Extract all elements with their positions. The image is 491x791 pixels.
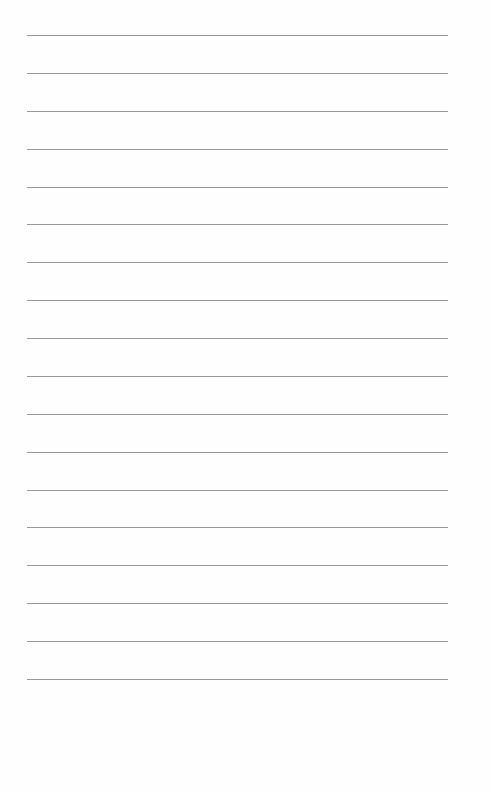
ruled-line <box>27 490 448 491</box>
ruled-line <box>27 224 448 225</box>
ruled-line <box>27 300 448 301</box>
ruled-line <box>27 565 448 566</box>
ruled-line <box>27 149 448 150</box>
ruled-line <box>27 338 448 339</box>
ruled-line <box>27 527 448 528</box>
ruled-line <box>27 679 448 680</box>
lined-paper-page <box>0 0 491 791</box>
ruled-line <box>27 376 448 377</box>
ruled-line <box>27 35 448 36</box>
ruled-line <box>27 111 448 112</box>
ruled-line <box>27 452 448 453</box>
ruled-line <box>27 187 448 188</box>
ruled-line <box>27 603 448 604</box>
ruled-line <box>27 73 448 74</box>
ruled-line <box>27 262 448 263</box>
ruled-line <box>27 641 448 642</box>
ruled-line <box>27 414 448 415</box>
